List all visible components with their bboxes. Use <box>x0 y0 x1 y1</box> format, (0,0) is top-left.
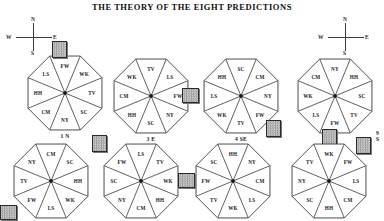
octagon-segment-label: HH <box>34 90 42 96</box>
octagon-segment-label: HH <box>128 112 136 118</box>
octagon-segment-label: LS <box>313 112 320 118</box>
octagon-diagram: FWWKTVSCNYCMHHLS1 N <box>22 55 108 141</box>
octagon-segment-label: WK <box>79 71 89 77</box>
octagon-center-hub <box>333 94 336 97</box>
octagon-segment-label: SC <box>67 159 74 165</box>
octagon-diagram: CMSCHHWKLSFWTVNY2 SW <box>8 143 94 221</box>
page-title: THE THEORY OF THE EIGHT PREDICTIONS <box>0 2 384 12</box>
compass-east-label: E <box>365 34 369 40</box>
octagon-segment-label: NY <box>331 66 339 72</box>
compass-west-label: W <box>6 34 12 40</box>
octagon-segment-label: SC <box>210 159 217 165</box>
octagon-segment-label: SC <box>237 66 244 72</box>
octagon-center-hub <box>49 179 52 182</box>
octagon-center-hub <box>139 179 142 182</box>
octagon-segment-label: LS <box>353 178 360 184</box>
octagon-segment-label: WK <box>228 205 238 211</box>
compass-north-label: N <box>343 16 347 22</box>
compass-north-label: N <box>31 16 35 22</box>
octagon-center-hub <box>149 94 152 97</box>
octagon-segment-label: LS <box>138 151 145 157</box>
octagon-segment-label: NY <box>118 197 126 203</box>
octagon-segment-label: TV <box>147 66 155 72</box>
direction-marker[interactable] <box>92 135 107 152</box>
octagon-segment-label: HH <box>74 178 82 184</box>
compass-west-label: W <box>318 34 324 40</box>
octagon-segment-label: HH <box>218 74 226 80</box>
octagon-segment-label: TV <box>20 178 28 184</box>
octagon-segment-label: NY <box>61 117 69 123</box>
octagon-diagram: LSTVWKHHCMNYSCFW6 NW <box>98 143 184 221</box>
octagon-segment-label: CM <box>46 151 55 157</box>
octagon-segment-label: LS <box>211 93 218 99</box>
octagon-center-hub <box>63 91 66 94</box>
octagon-segment-label: CM <box>41 109 50 115</box>
octagon-segment-label: SC <box>306 197 313 203</box>
compass-horizontal-axis <box>16 37 52 38</box>
compass-horizontal-axis <box>328 37 364 38</box>
octagon-segment-label: TV <box>237 120 245 126</box>
compass-east-label: E <box>53 34 57 40</box>
octagon-segment-label: WK <box>163 178 173 184</box>
octagon-segment-label: CM <box>344 197 353 203</box>
octagon-segment-label: TV <box>210 197 218 203</box>
direction-marker[interactable] <box>178 173 195 188</box>
direction-marker[interactable] <box>356 137 371 154</box>
octagon-segment-label: HH <box>156 197 164 203</box>
octagon-segment-label: CM <box>311 74 320 80</box>
octagon-center-hub <box>327 179 330 182</box>
octagon-segment-label: CM <box>119 93 128 99</box>
octagon-segment-label: FW <box>28 197 37 203</box>
direction-marker[interactable] <box>52 41 67 58</box>
octagon-segment-label: NY <box>28 159 36 165</box>
octagon-segment-label: FW <box>61 63 70 69</box>
octagon-segment-label: CM <box>136 205 145 211</box>
octagon-segment-label: LS <box>48 205 55 211</box>
octagon-caption: 4 SE <box>198 136 284 142</box>
octagon-segment-label: CM <box>255 178 264 184</box>
octagon-segment-label: LS <box>43 71 50 77</box>
octagon-segment-label: NY <box>264 93 272 99</box>
direction-marker[interactable] <box>182 88 199 103</box>
octagon-segment-label: TV <box>350 112 358 118</box>
octagon-center-hub <box>231 179 234 182</box>
compass-south-label: S <box>343 50 346 56</box>
octagon-segment-label: NY <box>248 159 256 165</box>
octagon-segment-label: TV <box>306 159 314 165</box>
octagon-diagram: HHNYCMLSWKTVFWSC7 W <box>190 143 276 221</box>
octagon-diagram: SCCMNYFWTVWKLSHH4 SE <box>198 58 284 144</box>
octagon-segment-label: WK <box>65 197 75 203</box>
octagon-segment-label: WK <box>324 151 334 157</box>
octagon-segment-label: TV <box>156 159 164 165</box>
octagon-center-hub <box>239 94 242 97</box>
octagon-segment-label: HH <box>229 151 237 157</box>
octagon-segment-label: WK <box>303 93 313 99</box>
octagon-segment-label: HH <box>350 74 358 80</box>
compass-right: N S W E <box>318 16 374 58</box>
octagon-segment-label: SC <box>110 178 117 184</box>
octagon-segment-label: NY <box>298 178 306 184</box>
octagon-diagram: WKFWLSCMHHSCNYTV8 NE <box>286 143 372 221</box>
octagon-segment-label: SC <box>358 93 365 99</box>
octagon-segment-label: SC <box>81 109 88 115</box>
octagon-diagram: TVLSFWNYSCHHCMWK3 E <box>108 58 194 144</box>
octagon-segment-label: FW <box>331 120 340 126</box>
direction-marker[interactable] <box>0 205 17 220</box>
octagon-diagram: NYHHSCTVFWLSWKCM9 S <box>292 58 378 144</box>
octagon-caption: 3 E <box>108 136 194 142</box>
octagon-segment-label: LS <box>249 197 256 203</box>
direction-marker[interactable] <box>266 120 281 137</box>
octagon-segment-label: WK <box>217 112 227 118</box>
octagon-caption: 9 S <box>376 130 379 142</box>
octagon-segment-label: SC <box>147 120 154 126</box>
octagon-segment-label: CM <box>256 74 265 80</box>
octagon-segment-label: WK <box>127 74 137 80</box>
octagon-segment-label: FW <box>344 159 353 165</box>
octagon-segment-label: FW <box>202 178 211 184</box>
octagon-segment-label: FW <box>256 112 265 118</box>
octagon-segment-label: FW <box>118 159 127 165</box>
octagon-segment-label: NY <box>166 112 174 118</box>
octagon-segment-label: TV <box>88 90 96 96</box>
octagon-segment-label: HH <box>325 205 333 211</box>
octagon-segment-label: LS <box>167 74 174 80</box>
